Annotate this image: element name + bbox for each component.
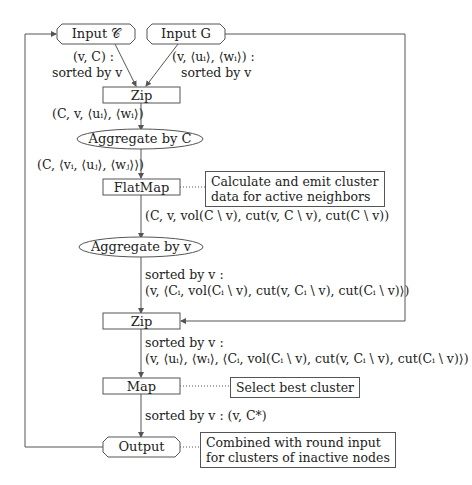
input-g-node: Input G bbox=[147, 26, 225, 41]
aggregate-v-node: Aggregate by v bbox=[79, 239, 203, 254]
note-line: data for active neighbors bbox=[211, 189, 379, 204]
edge-label-line: (v, C) : bbox=[62, 49, 114, 64]
edge-label-aggregate-v-sorted: sorted by v : bbox=[145, 267, 224, 282]
edge-label-aggregate-c: (C, ⟨vᵢ, ⟨uⱼ⟩, ⟨wⱼ⟩⟩) bbox=[37, 157, 144, 172]
output-note: Combined with round input for clusters o… bbox=[200, 432, 396, 468]
note-line: Combined with round input bbox=[206, 435, 390, 450]
edge-label-flatmap: (C, v, vol(C \ v), cut(v, C \ v), cut(C … bbox=[145, 208, 389, 223]
edge-label-input-g: (v, ⟨uᵢ⟩, ⟨wᵢ⟩) : bbox=[172, 49, 255, 64]
zip1-node: Zip bbox=[103, 88, 180, 103]
edge-label-input-g-sorted: sorted by v bbox=[181, 65, 251, 80]
map-node: Map bbox=[103, 379, 180, 394]
edge-label-zip2-sorted: sorted by v : bbox=[145, 335, 224, 350]
edge-label-map: sorted by v : (v, C*) bbox=[145, 408, 267, 423]
aggregate-c-node: Aggregate by C bbox=[77, 131, 203, 146]
output-node: Output bbox=[103, 439, 180, 454]
edge-label-zip2: (v, ⟨uᵢ⟩, ⟨wᵢ⟩, ⟨Cᵢ, vol(Cᵢ \ v), cut(v,… bbox=[145, 351, 469, 366]
zip2-node: Zip bbox=[103, 314, 180, 329]
flatmap-node: FlatMap bbox=[103, 180, 180, 195]
note-line: for clusters of inactive nodes bbox=[206, 450, 390, 465]
edge-label-zip1: (C, v, ⟨uᵢ⟩, ⟨wᵢ⟩) bbox=[52, 106, 144, 121]
edge-label-input-c-sorted: sorted by v bbox=[52, 65, 122, 80]
note-line: Calculate and emit cluster bbox=[211, 174, 379, 189]
input-c-node: Input 𝒞 bbox=[57, 26, 135, 42]
flatmap-note: Calculate and emit cluster data for acti… bbox=[205, 171, 385, 207]
edge-label-aggregate-v: (v, ⟨Cᵢ, vol(Cᵢ \ v), cut(v, Cᵢ \ v), cu… bbox=[145, 283, 409, 298]
edge-label-input-c: (v, C) : bbox=[62, 49, 114, 64]
map-note: Select best cluster bbox=[230, 377, 360, 398]
